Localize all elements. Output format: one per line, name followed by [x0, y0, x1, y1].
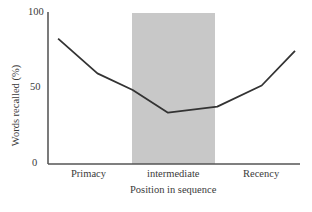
- x-category-primacy: Primacy: [71, 168, 106, 179]
- x-category-recency: Recency: [243, 168, 279, 179]
- x-category-intermediate: intermediate: [147, 168, 199, 179]
- y-axis-label: Words recalled (%): [10, 56, 21, 156]
- chart-canvas: [0, 0, 312, 212]
- y-tick-50: 50: [30, 81, 41, 92]
- intermediate-region: [132, 13, 215, 164]
- x-axis-label: Position in sequence: [130, 184, 216, 195]
- y-tick-0: 0: [32, 157, 37, 168]
- y-tick-100: 100: [28, 6, 44, 17]
